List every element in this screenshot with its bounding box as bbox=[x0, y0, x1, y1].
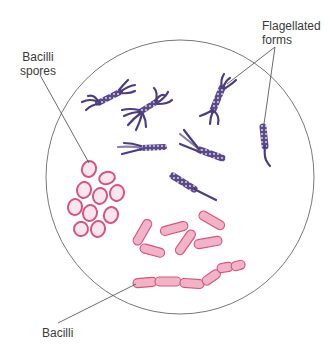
flagellated-bacterium-4 bbox=[263, 127, 270, 166]
bacilli-spores-cluster bbox=[67, 159, 126, 238]
leader-line-bacilli bbox=[58, 284, 136, 323]
bacilli-chain bbox=[133, 259, 246, 289]
bacilli-rods bbox=[132, 210, 227, 259]
label-bacilli: Bacilli bbox=[42, 326, 73, 340]
label-flagellated-line2: forms bbox=[262, 33, 321, 47]
label-flagellated-forms: Flagellated forms bbox=[262, 19, 321, 47]
flagellated-bacterium-5 bbox=[118, 143, 164, 154]
leader-line-spores bbox=[40, 75, 89, 163]
flagellated-bacterium-7 bbox=[173, 176, 216, 200]
label-flagellated-line1: Flagellated bbox=[262, 19, 321, 33]
microscope-diagram: Flagellated forms Bacilli spores Bacilli bbox=[0, 0, 331, 346]
label-bacilli-spores: Bacilli spores bbox=[20, 50, 56, 78]
label-spores-line2: spores bbox=[20, 64, 56, 78]
flagellated-bacterium-6 bbox=[180, 130, 222, 158]
label-bacilli-line1: Bacilli bbox=[42, 326, 73, 340]
leader-line-flagellated-2 bbox=[264, 47, 275, 124]
label-spores-line1: Bacilli bbox=[20, 50, 56, 64]
leader-line-flagellated-1 bbox=[227, 47, 275, 84]
flagellated-bacterium-1 bbox=[82, 80, 135, 110]
flagellated-bacterium-2 bbox=[122, 88, 172, 130]
